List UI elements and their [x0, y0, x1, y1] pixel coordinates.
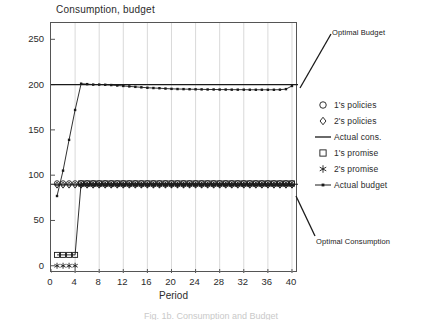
circle-icon [312, 98, 334, 112]
x-tick-label: 12 [117, 276, 128, 287]
y-axis-tick-labels: 050100150200250 [8, 22, 44, 272]
legend-item-label: Actual budget [334, 180, 387, 190]
x-tick-label: 16 [141, 276, 152, 287]
chart-legend: 1's policies2's policiesActual cons.1's … [312, 97, 420, 193]
legend-item: 1's policies [312, 97, 420, 113]
y-tick-label: 250 [28, 33, 44, 44]
legend-item: 2's policies [312, 113, 420, 129]
figure-caption: Fig. 1b. Consumption and Budget [0, 311, 422, 320]
plot-frame [50, 22, 297, 272]
plot-svg [51, 23, 298, 273]
y-tick-label: 0 [39, 259, 44, 270]
y-tick-label: 150 [28, 123, 44, 134]
x-axis-tick-labels: 0481216202428323640 [50, 276, 297, 290]
x-tick-label: 24 [189, 276, 200, 287]
legend-item-label: 2's promise [334, 164, 378, 174]
legend-item: Actual budget [312, 177, 420, 193]
series-line-actual-budget [57, 84, 292, 196]
legend-item: 1's promise [312, 145, 420, 161]
chart-screenshot: Consumption, budget 050100150200250 0481… [0, 0, 422, 320]
leader-line-optimal-budget [300, 34, 331, 88]
legend-item-label: 2's policies [334, 116, 377, 126]
x-tick-label: 32 [237, 276, 248, 287]
line-icon [312, 130, 334, 144]
chart-title: Consumption, budget [56, 4, 155, 15]
x-tick-label: 28 [213, 276, 224, 287]
line-dot-icon [312, 178, 334, 192]
legend-item-label: 1's policies [334, 100, 377, 110]
y-tick-label: 100 [28, 169, 44, 180]
annotation-optimal-consumption: Optimal Consumption [316, 237, 390, 246]
x-tick-label: 4 [71, 276, 76, 287]
square-icon [312, 146, 334, 160]
leader-line-optimal-consumption [296, 196, 315, 236]
legend-item: Actual cons. [312, 129, 420, 145]
x-axis-label: Period [50, 290, 297, 301]
x-tick-label: 0 [47, 276, 52, 287]
plot-area [51, 23, 296, 271]
series-line-1s-promise [57, 183, 292, 255]
x-tick-label: 36 [262, 276, 273, 287]
y-tick-label: 50 [33, 214, 44, 225]
x-tick-label: 20 [165, 276, 176, 287]
annotation-optimal-budget: Optimal Budget [332, 28, 385, 37]
asterisk-icon [312, 162, 334, 176]
y-tick-label: 200 [28, 78, 44, 89]
legend-item-label: 1's promise [334, 148, 378, 158]
x-tick-label: 8 [96, 276, 101, 287]
series-markers---s-promise [55, 181, 295, 258]
series-markers---s-promise [54, 182, 294, 269]
diamond-icon [312, 114, 334, 128]
legend-item: 2's promise [312, 161, 420, 177]
x-tick-label: 40 [286, 276, 297, 287]
legend-item-label: Actual cons. [334, 132, 382, 142]
